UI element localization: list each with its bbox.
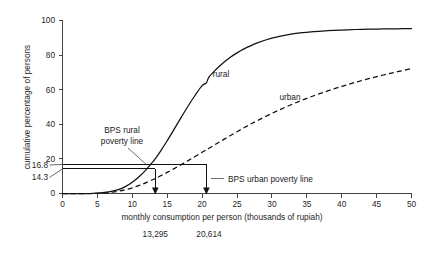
- x-tick-label-30: 30: [267, 199, 277, 209]
- x-tick-label-35: 35: [302, 199, 312, 209]
- x-tick-label-45: 45: [372, 199, 382, 209]
- y-callout-group: 16.8 14.3: [32, 160, 63, 183]
- x-axis-title: monthly consumption per person (thousand…: [121, 212, 322, 222]
- series-labels: rural urban: [213, 69, 301, 102]
- axes: [63, 21, 412, 194]
- y-tick-label-0: 0: [50, 188, 55, 198]
- x-tick-label-40: 40: [337, 199, 347, 209]
- x-axis-tick-labels: 0 5 10 15 20 25 30 35 40 45 50: [60, 199, 416, 209]
- y-callout-leader-14-3: [50, 169, 63, 178]
- x-axis-ticks: [63, 194, 412, 198]
- y-callout-label-14-3: 14.3: [32, 172, 49, 182]
- y-axis-title: cumulative percentage of persons: [22, 45, 32, 170]
- y-callout-label-16-8: 16.8: [32, 160, 49, 170]
- series-label-rural: rural: [213, 69, 230, 79]
- annotation-rural-line2: poverty line: [101, 136, 144, 146]
- marker-label-urban: 20,614: [196, 229, 222, 239]
- annotation-urban-text: BPS urban poverty line: [228, 174, 313, 184]
- y-tick-label-80: 80: [46, 50, 56, 60]
- x-tick-label-15: 15: [163, 199, 173, 209]
- marker-label-rural: 13,295: [143, 229, 169, 239]
- cumulative-distribution-chart: 100 80 60 40 20 0 16.8 14.3: [0, 0, 424, 256]
- y-tick-label-40: 40: [46, 119, 56, 129]
- x-tick-label-5: 5: [95, 199, 100, 209]
- y-tick-label-100: 100: [41, 15, 55, 25]
- x-tick-label-20: 20: [197, 199, 207, 209]
- chart-container: 100 80 60 40 20 0 16.8 14.3: [0, 0, 424, 256]
- series-label-urban: urban: [279, 92, 301, 102]
- annotation-rural-line1: BPS rural: [104, 125, 140, 135]
- annotation-bps-urban-poverty-line: BPS urban poverty line: [211, 174, 313, 184]
- x-tick-label-0: 0: [60, 199, 65, 209]
- marker-value-labels: 13,295 20,614: [143, 229, 222, 239]
- y-callout-leader-16-8: [50, 164, 63, 165]
- y-tick-label-60: 60: [46, 85, 56, 95]
- y-axis-tick-labels: 100 80 60 40 20 0: [41, 15, 55, 198]
- x-tick-label-25: 25: [232, 199, 242, 209]
- annotation-rural-leader: [128, 148, 146, 164]
- x-tick-label-50: 50: [407, 199, 417, 209]
- annotation-bps-rural-poverty-line: BPS rural poverty line: [101, 125, 146, 164]
- x-tick-label-10: 10: [128, 199, 138, 209]
- y-axis-ticks: [59, 21, 63, 194]
